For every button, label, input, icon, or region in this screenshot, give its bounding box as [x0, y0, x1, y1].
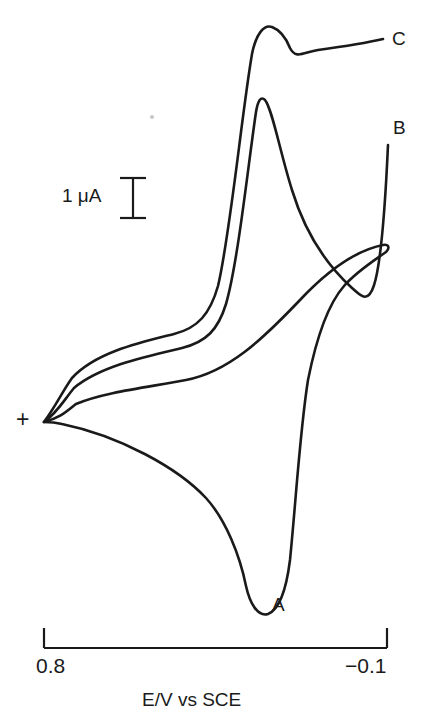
axis-tick-label-right: −0.1	[345, 655, 386, 676]
curve-label-a: A	[272, 595, 285, 614]
axis-tick-label-left: 0.8	[36, 655, 65, 676]
curve-label-c: C	[392, 29, 406, 48]
cyclic-voltammogram-figure	[0, 0, 434, 724]
scale-bar-label: 1 μA	[62, 186, 101, 205]
plate-speck-artifact	[150, 115, 154, 119]
axis-caption: E/V vs SCE	[142, 690, 241, 709]
figure-background	[0, 0, 434, 724]
positive-polarity-marker: +	[16, 408, 29, 431]
curve-label-b: B	[393, 118, 406, 137]
